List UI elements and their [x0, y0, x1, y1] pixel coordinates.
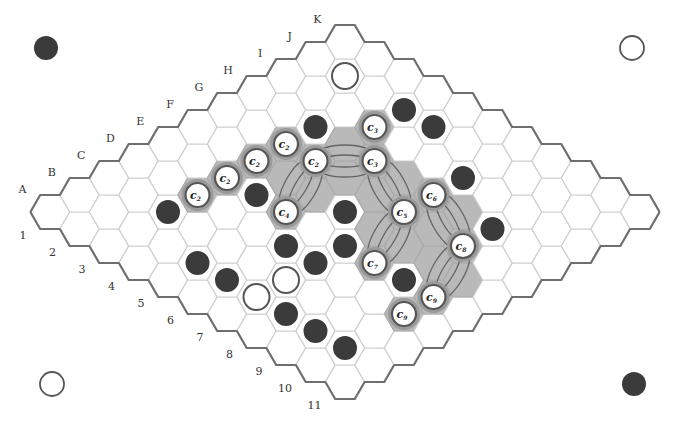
hex-board-diagram: c2c2c2c2c2c3c3c4c5c6c7c8c9c9 ABCDEFGHIJK… [0, 0, 676, 422]
column-label-G: G [195, 81, 204, 94]
corner-black-marker-icon [622, 372, 646, 396]
row-label-2: 2 [49, 246, 56, 259]
black-stone-E7 [332, 233, 358, 259]
black-stone-H3 [303, 114, 329, 140]
black-stone-D6 [273, 233, 299, 259]
column-label-F: F [166, 98, 174, 111]
row-label-4: 4 [108, 280, 115, 293]
labeled-white-stone-E3: c2 [213, 164, 242, 193]
black-stone-E9 [391, 267, 417, 293]
labeled-white-stone-E5: c4 [272, 198, 301, 227]
labeled-white-stone-G4: c2 [301, 147, 330, 176]
white-stone-B7 [244, 284, 270, 310]
row-label-8: 8 [226, 348, 233, 361]
column-label-A: A [17, 183, 27, 196]
labeled-white-stone-E8: c7 [360, 249, 389, 278]
white-stone-C7 [273, 267, 299, 293]
column-label-I: I [258, 47, 262, 60]
black-stone-B5 [185, 250, 211, 276]
row-label-11: 11 [307, 399, 321, 412]
column-label-C: C [77, 149, 85, 162]
row-label-10: 10 [278, 382, 292, 395]
column-label-J: J [286, 30, 291, 43]
column-label-H: H [223, 64, 233, 77]
black-stone-B6 [214, 267, 240, 293]
row-label-3: 3 [78, 263, 85, 276]
labeled-white-stone-F3: c2 [242, 147, 271, 176]
black-stone-I7 [450, 165, 476, 191]
column-label-E: E [136, 115, 144, 128]
labeled-white-stone-G7: c5 [390, 198, 419, 227]
labeled-white-stone-G3: c2 [272, 130, 301, 159]
row-label-5: 5 [137, 297, 144, 310]
black-stone-J5 [421, 114, 447, 140]
labeled-white-stone-G9: c8 [449, 232, 478, 261]
row-label-6: 6 [167, 314, 174, 327]
row-label-9: 9 [255, 365, 262, 378]
black-stone-B9 [303, 318, 329, 344]
black-stone-E4 [244, 182, 270, 208]
black-stone-D7 [303, 250, 329, 276]
black-stone-B10 [332, 335, 358, 361]
labeled-white-stone-H5: c3 [360, 147, 389, 176]
labeled-white-stone-I4: c3 [360, 113, 389, 142]
labeled-white-stone-D10: c9 [390, 300, 419, 329]
corner-white-marker-icon [620, 36, 644, 60]
black-stone-F6 [332, 199, 358, 225]
corner-black-marker-icon [34, 36, 58, 60]
labeled-white-stone-H7: c6 [419, 181, 448, 210]
column-label-K: K [313, 13, 322, 26]
black-stone-B8 [273, 301, 299, 327]
black-stone-J4 [391, 97, 417, 123]
labeled-white-stone-E10: c9 [419, 283, 448, 312]
column-label-D: D [106, 132, 115, 145]
black-stone-C3 [155, 199, 181, 225]
black-stone-H9 [480, 216, 506, 242]
labeled-white-stone-D3: c2 [183, 181, 212, 210]
corner-white-marker-icon [40, 372, 64, 396]
row-label-7: 7 [196, 331, 203, 344]
row-label-1: 1 [19, 229, 26, 242]
column-label-B: B [48, 166, 56, 179]
white-stone-J2 [332, 63, 358, 89]
